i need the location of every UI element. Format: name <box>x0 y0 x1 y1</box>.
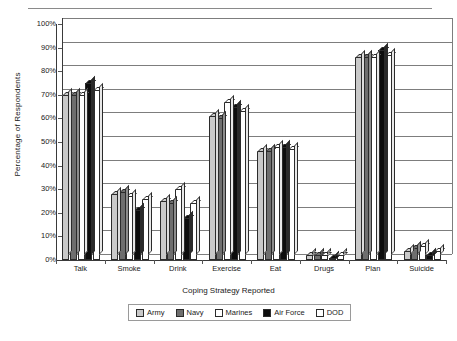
legend-swatch <box>263 309 271 317</box>
bar-side-face <box>148 191 152 255</box>
bar-side-face <box>361 50 365 255</box>
bar-side-face <box>166 194 170 255</box>
legend-swatch <box>316 309 324 317</box>
bar-side-face <box>222 111 226 255</box>
bar-army <box>62 95 69 260</box>
legend-label: Marines <box>226 308 253 317</box>
legend-label: Army <box>147 308 165 317</box>
legend-label: DOD <box>327 308 344 317</box>
bar-side-face <box>181 182 185 255</box>
bar-army <box>209 116 216 260</box>
bar-army <box>160 201 167 260</box>
legend-label: Navy <box>187 308 204 317</box>
bar-side-face <box>440 243 444 255</box>
bar-marines <box>321 255 328 260</box>
bar-side-face <box>237 99 241 255</box>
bar-side-face <box>91 76 95 255</box>
bar-side-face <box>263 144 267 255</box>
bar-army <box>257 151 264 260</box>
legend-swatch <box>136 309 144 317</box>
bar-side-face <box>68 88 72 255</box>
bar-side-face <box>286 140 290 255</box>
bar-side-face <box>384 43 388 255</box>
bar-side-face <box>125 184 129 255</box>
chart-legend: ArmyNavyMarinesAir ForceDOD <box>128 304 351 321</box>
bar-navy <box>314 255 321 260</box>
bar-side-face <box>84 88 88 255</box>
legend-item-army: Army <box>136 308 165 317</box>
bar-army <box>111 194 118 260</box>
bar-side-face <box>117 187 121 255</box>
bar-side-face <box>230 95 234 255</box>
bar-side-face <box>76 88 80 255</box>
bar-army <box>355 57 362 260</box>
x-axis-label: Coping Strategy Reported <box>0 286 457 295</box>
bar-side-face <box>391 48 395 255</box>
bar-side-face <box>294 142 298 255</box>
legend-item-navy: Navy <box>176 308 204 317</box>
bar-air-force <box>426 255 433 260</box>
legend-item-marines: Marines <box>215 308 253 317</box>
bar-side-face <box>140 203 144 255</box>
legend-swatch <box>215 309 223 317</box>
bar-side-face <box>368 50 372 255</box>
legend-item-dod: DOD <box>316 308 344 317</box>
bar-army <box>404 251 411 260</box>
bar-side-face <box>376 50 380 255</box>
chart-container: Percentage of Respondents 0%10%20%30%40%… <box>0 0 457 341</box>
bar-side-face <box>189 210 193 255</box>
bar-side-face <box>245 104 249 255</box>
bar-side-face <box>215 109 219 255</box>
bar-side-face <box>99 83 103 255</box>
legend-item-air-force: Air Force <box>263 308 304 317</box>
x-tick-mark <box>446 260 447 264</box>
legend-swatch <box>176 309 184 317</box>
bar-side-face <box>279 140 283 255</box>
x-tick-label: Suicide <box>392 264 452 273</box>
bar-side-face <box>271 144 275 255</box>
bar-side-face <box>132 189 136 255</box>
legend-label: Air Force <box>274 308 304 317</box>
bar-air-force <box>329 258 336 260</box>
bar-side-face <box>173 196 177 255</box>
bar-side-face <box>196 196 200 255</box>
bar-army <box>306 255 313 260</box>
